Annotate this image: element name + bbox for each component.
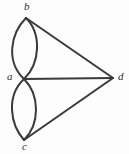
edge-b-d [26,18,113,78]
edge-a-b-left [12,18,26,79]
graph-canvas [0,0,129,154]
edge-a-d [24,78,113,79]
vertex-label-b: b [24,1,30,12]
edge-a-c-right [24,79,36,140]
edge-c-d [24,78,113,140]
edge-a-b-right [24,18,37,79]
vertex-label-c: c [22,141,27,152]
vertex-label-d: d [118,71,124,82]
graph-figure: b a c d [0,0,129,154]
vertex-label-a: a [7,71,13,82]
edge-a-c-left [12,79,24,140]
